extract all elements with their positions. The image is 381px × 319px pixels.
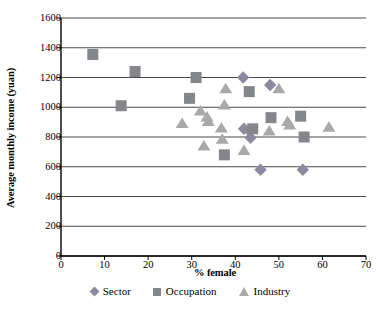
- y-tick-label: 1400: [21, 43, 61, 54]
- series-occupation: [87, 49, 309, 160]
- y-tick-label: 1600: [21, 13, 61, 24]
- data-point: [130, 66, 141, 77]
- data-point: [299, 132, 310, 143]
- data-point: [297, 164, 309, 176]
- y-tick-label: 600: [21, 162, 61, 173]
- y-tick-label: 400: [21, 191, 61, 202]
- data-point: [264, 79, 276, 91]
- square-marker-icon: [153, 288, 161, 296]
- y-axis-title: Average monthly income (yuan): [2, 18, 20, 258]
- data-point: [219, 149, 230, 160]
- data-point: [176, 118, 189, 128]
- data-point: [263, 125, 276, 135]
- data-point: [244, 86, 255, 97]
- chart-legend: SectorOccupationIndustry: [0, 286, 381, 297]
- x-axis-title: % female: [60, 267, 370, 278]
- data-point: [266, 112, 277, 123]
- data-point: [184, 93, 195, 104]
- data-point: [216, 133, 229, 144]
- data-point: [116, 100, 127, 111]
- data-point: [295, 111, 306, 122]
- data-point: [219, 83, 232, 94]
- data-point: [191, 72, 202, 83]
- series-industry: [176, 83, 336, 155]
- legend-label: Sector: [103, 286, 131, 297]
- diamond-marker-icon: [89, 287, 99, 297]
- data-point: [247, 123, 258, 134]
- data-point: [87, 49, 98, 60]
- data-point: [254, 164, 266, 176]
- data-point: [194, 105, 207, 116]
- data-point: [215, 122, 228, 133]
- y-tick-label: 1000: [21, 102, 61, 113]
- legend-item-industry[interactable]: Industry: [239, 286, 291, 297]
- y-tick-label: 1200: [21, 72, 61, 83]
- data-point: [218, 99, 231, 110]
- data-point: [237, 71, 249, 83]
- scatter-chart: Average monthly income (yuan) 0200400600…: [0, 0, 381, 319]
- legend-label: Industry: [254, 286, 291, 297]
- triangle-marker-icon: [239, 287, 249, 296]
- y-tick-label: 200: [21, 221, 61, 232]
- y-tick-label: 800: [21, 132, 61, 143]
- data-point: [197, 140, 210, 151]
- legend-item-occupation[interactable]: Occupation: [153, 286, 217, 297]
- legend-label: Occupation: [166, 286, 217, 297]
- data-point: [238, 144, 251, 155]
- data-point: [322, 121, 335, 131]
- legend-item-sector[interactable]: Sector: [91, 286, 131, 297]
